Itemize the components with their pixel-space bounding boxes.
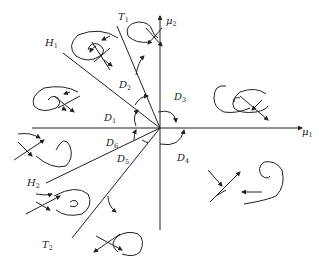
arc-d6 (134, 130, 136, 140)
mu1-axis-label: μ1 (302, 127, 313, 139)
region-d2-label: D2 (119, 80, 131, 92)
region-d1-label: D1 (104, 113, 116, 125)
arc-d2 (135, 96, 148, 105)
curve-h2 (46, 128, 160, 183)
phase-portrait-h2 (26, 189, 90, 215)
arc-d5 (142, 140, 148, 143)
region-d3-label: D3 (174, 92, 186, 104)
phase-portrait-d4 (208, 162, 283, 204)
arc-d1 (134, 110, 138, 126)
region-d4-label: D4 (177, 153, 189, 165)
curve-t2-label: T2 (42, 240, 53, 252)
curve-t1-label: T1 (118, 12, 129, 24)
curve-h2-label: H2 (27, 178, 40, 190)
phase-portrait-t1 (127, 22, 162, 46)
arc-d4 (160, 130, 184, 145)
phase-portrait-h1 (71, 31, 118, 70)
phase-portrait-t2 (94, 232, 143, 255)
phase-portrait-d6 (14, 134, 71, 167)
phase-portrait-d1 (33, 87, 80, 112)
arc-d3 (158, 111, 176, 122)
t2-branch (108, 196, 116, 212)
mu2-axis-label: μ2 (166, 16, 177, 28)
region-d6-label: D6 (106, 138, 118, 150)
curve-h1-label: H1 (45, 38, 58, 50)
region-d5-label: D5 (117, 154, 129, 166)
phase-portrait-d3 (214, 86, 268, 120)
t1-branch (136, 56, 144, 75)
